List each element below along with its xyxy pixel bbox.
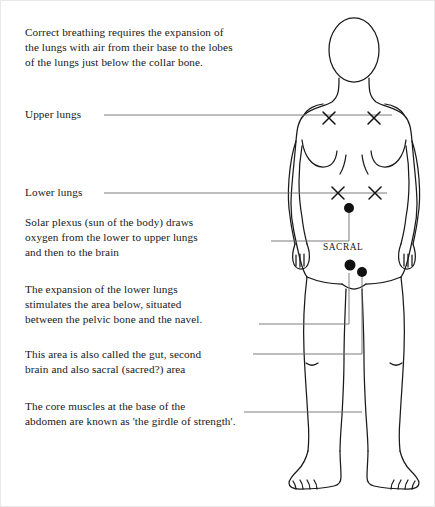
lower-lungs-label: Lower lungs xyxy=(25,185,82,200)
upper-lung-x-right xyxy=(368,112,380,124)
intro-paragraph: Correct breathing requires the expansion… xyxy=(25,25,325,71)
expansion-paragraph: The expansion of the lower lungs stimula… xyxy=(25,282,280,328)
core-muscles-paragraph: The core muscles at the base of the abdo… xyxy=(25,399,287,429)
sacral-dot-lower xyxy=(357,267,367,277)
gut-paragraph: This area is also called the gut, second… xyxy=(25,347,275,377)
sacral-label: SACRAL xyxy=(323,242,363,252)
upper-lungs-label: Upper lungs xyxy=(25,107,81,122)
solar-plexus-dot xyxy=(344,203,354,213)
lower-lung-x-left xyxy=(332,187,344,199)
upper-lung-x-left xyxy=(323,112,335,124)
solar-plexus-paragraph: Solar plexus (sun of the body) draws oxy… xyxy=(25,215,275,261)
sacral-dot-upper xyxy=(345,260,356,271)
diagram-page: Correct breathing requires the expansion… xyxy=(0,0,435,507)
lower-lung-x-right xyxy=(369,187,381,199)
